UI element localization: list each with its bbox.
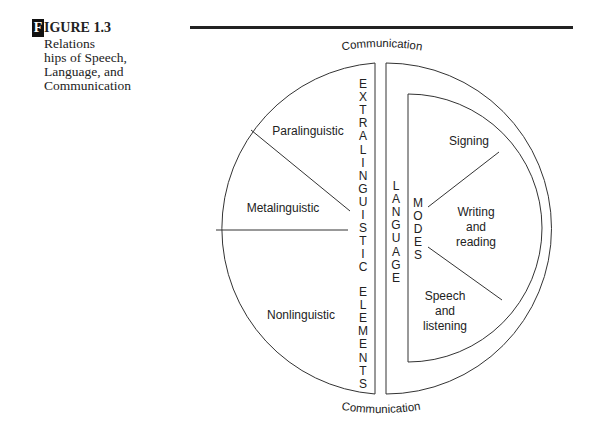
- vertical-letter: A: [359, 129, 367, 143]
- extralinguistic-half: [222, 63, 375, 394]
- divider-signing: [428, 152, 499, 207]
- vertical-label-modes: MODES: [413, 196, 423, 262]
- vertical-letter: A: [392, 245, 400, 259]
- vertical-letter: I: [361, 208, 364, 222]
- vertical-letter: N: [392, 205, 401, 219]
- vertical-letter: S: [414, 248, 422, 262]
- vertical-letter: E: [359, 285, 367, 299]
- vertical-letter: M: [358, 324, 368, 338]
- section-writing-line3: reading: [456, 235, 496, 249]
- vertical-letter: G: [358, 182, 367, 196]
- section-signing: Signing: [449, 134, 489, 148]
- vertical-letter: L: [360, 298, 367, 312]
- vertical-letter: N: [359, 351, 368, 365]
- vertical-letter: E: [359, 337, 367, 351]
- section-metalinguistic: Metalinguistic: [247, 201, 320, 215]
- vertical-letter: U: [392, 231, 401, 245]
- vertical-letter: I: [361, 156, 364, 170]
- section-speech-line3: listening: [423, 319, 467, 333]
- vertical-label-elements: ELEMENTS: [358, 285, 368, 391]
- vertical-letter: N: [359, 169, 368, 183]
- vertical-letter: M: [413, 196, 423, 210]
- vertical-label-extralinguistic: EXTRALINGUISTIC: [358, 77, 367, 274]
- section-speech-line2: and: [435, 304, 455, 318]
- vertical-letter: O: [413, 209, 422, 223]
- vertical-letter: E: [359, 311, 367, 325]
- section-writing-line1: Writing: [457, 205, 494, 219]
- vertical-letter: T: [359, 234, 367, 248]
- vertical-letter: L: [393, 179, 400, 193]
- vertical-letter: E: [359, 77, 367, 91]
- section-paralinguistic: Paralinguistic: [272, 124, 343, 138]
- vertical-letter: T: [359, 103, 367, 117]
- section-nonlinguistic: Nonlinguistic: [267, 308, 335, 322]
- section-speech-line1: Speech: [425, 289, 466, 303]
- vertical-letter: U: [359, 195, 368, 209]
- vertical-label-language: LANGUAGE: [391, 179, 400, 285]
- vertical-letter: S: [359, 221, 367, 235]
- vertical-letter: E: [414, 235, 422, 249]
- vertical-letter: L: [360, 143, 367, 157]
- section-writing-line2: and: [466, 220, 486, 234]
- vertical-letter: S: [359, 377, 367, 391]
- vertical-letter: A: [392, 192, 400, 206]
- vertical-letter: C: [359, 260, 368, 274]
- communication-diagram: Communication Communication Paralinguist…: [0, 0, 597, 423]
- vertical-letter: G: [391, 258, 400, 272]
- divider-paralinguistic: [251, 130, 350, 211]
- vertical-letter: I: [361, 247, 364, 261]
- vertical-letter: E: [392, 271, 400, 285]
- vertical-letter: G: [391, 218, 400, 232]
- vertical-letter: D: [414, 222, 423, 236]
- communication-label-bottom: Communication: [341, 400, 421, 415]
- vertical-letter: X: [359, 90, 367, 104]
- vertical-letter: T: [359, 364, 367, 378]
- communication-label-top: Communication: [341, 37, 424, 53]
- vertical-letter: R: [359, 116, 368, 130]
